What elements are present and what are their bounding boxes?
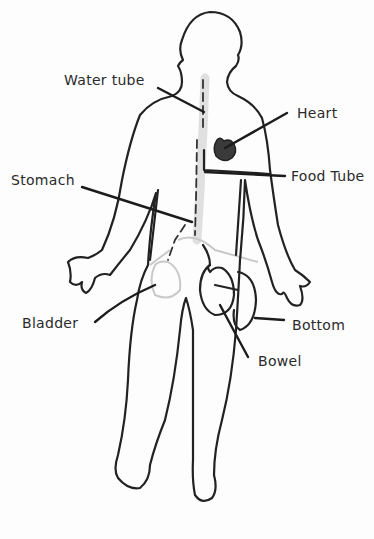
leader-heart xyxy=(225,113,287,148)
label-food-tube: Food Tube xyxy=(291,169,365,183)
label-bladder: Bladder xyxy=(22,316,78,330)
label-bowel: Bowel xyxy=(258,354,302,368)
bladder-shape xyxy=(152,261,181,297)
leader-water-tube xyxy=(158,88,204,112)
bowel-shape xyxy=(200,265,234,315)
heart-shape xyxy=(214,138,235,160)
leader-stomach xyxy=(82,187,192,222)
label-heart: Heart xyxy=(297,106,337,120)
body-outline-drawing xyxy=(0,0,374,539)
body-diagram: Water tube Heart Stomach Food Tube Bladd… xyxy=(0,0,374,539)
label-water-tube: Water tube xyxy=(64,73,145,87)
leader-bottom xyxy=(255,318,284,320)
label-bottom: Bottom xyxy=(292,318,345,332)
leader-bladder xyxy=(95,285,155,322)
label-stomach: Stomach xyxy=(11,173,75,187)
